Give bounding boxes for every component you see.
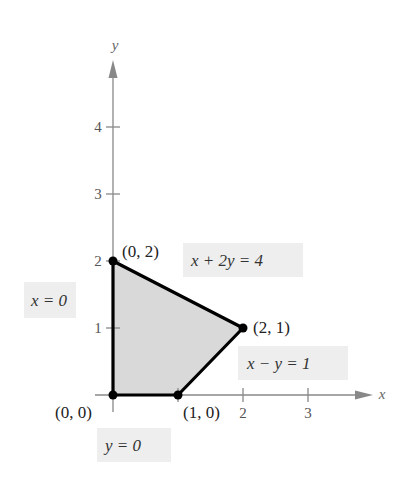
x-tick-label-3: 3 (304, 405, 312, 421)
eq-y-eq-0: y = 0 (103, 436, 142, 455)
eq-x-minus-y-eq-1: x − y = 1 (246, 354, 311, 373)
y-tick-label-4: 4 (94, 119, 102, 135)
feasible-region-diagram: 1 2 3 4 2 3 y x (0, 2) (2, 1) (0, 0) (1,… (0, 0, 403, 485)
vertex-0-0 (109, 391, 118, 400)
y-tick-label-1: 1 (94, 320, 102, 336)
feasible-region (113, 261, 243, 395)
x-axis-arrow-icon (355, 391, 373, 400)
y-tick-label-2: 2 (94, 253, 102, 269)
point-label-2-1: (2, 1) (253, 318, 290, 337)
point-label-0-0: (0, 0) (55, 403, 92, 422)
point-label-1-0: (1, 0) (183, 403, 220, 422)
eq-x-eq-0: x = 0 (30, 291, 68, 310)
y-tick-label-3: 3 (94, 186, 102, 202)
diagram-canvas: 1 2 3 4 2 3 y x (0, 2) (2, 1) (0, 0) (1,… (0, 0, 403, 485)
point-label-0-2: (0, 2) (122, 242, 159, 261)
eq-x-plus-2y-eq-4: x + 2y = 4 (190, 251, 264, 270)
vertex-2-1 (239, 324, 248, 333)
x-tick-label-2: 2 (239, 405, 247, 421)
y-axis-label: y (110, 37, 119, 53)
y-axis-arrow-icon (109, 60, 118, 78)
x-axis-label: x (378, 386, 386, 402)
vertex-1-0 (174, 391, 183, 400)
vertex-0-2 (109, 257, 118, 266)
